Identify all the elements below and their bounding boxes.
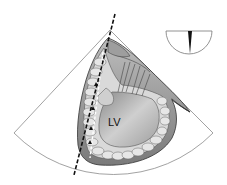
left-atrium xyxy=(108,40,130,57)
orientation-marker xyxy=(166,31,212,54)
echo-diagram xyxy=(0,0,227,185)
lv-label: LV xyxy=(108,116,121,128)
